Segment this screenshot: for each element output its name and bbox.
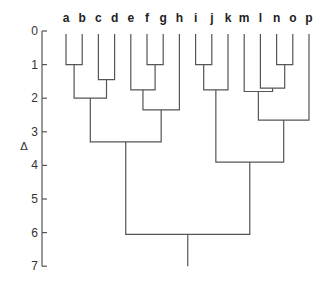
y-tick-label: 1 <box>31 58 38 72</box>
merge-efg <box>131 34 155 90</box>
merge-cd <box>98 34 114 80</box>
leaf-label-n: n <box>273 11 280 25</box>
leaf-labels: abcdefghijkmlnop <box>63 11 313 25</box>
leaf-label-o: o <box>289 11 296 25</box>
leaf-label-m: m <box>239 11 250 25</box>
leaf-label-a: a <box>63 11 70 25</box>
y-tick-label: 7 <box>31 259 38 273</box>
leaf-label-l: l <box>259 11 262 25</box>
leaf-label-j: j <box>209 11 213 25</box>
merge-ijk <box>204 34 228 90</box>
merge-ij <box>196 34 212 65</box>
merge-no <box>277 34 293 65</box>
merge-efgh <box>143 34 179 110</box>
merge-lno <box>260 34 284 88</box>
merge-mlno <box>244 34 272 91</box>
leaf-label-d: d <box>111 11 118 25</box>
leaf-label-i: i <box>194 11 197 25</box>
y-axis-title: Δ <box>20 140 28 153</box>
leaf-label-k: k <box>225 11 232 25</box>
merge-mlnop <box>258 34 309 120</box>
leaf-label-c: c <box>95 11 102 25</box>
y-tick-label: 0 <box>31 24 38 38</box>
y-axis: 01234567 <box>31 24 47 273</box>
merge-abcd <box>74 65 106 99</box>
leaf-label-b: b <box>79 11 86 25</box>
merge-i-p <box>216 90 284 162</box>
y-tick-label: 6 <box>31 226 38 240</box>
leaf-label-e: e <box>127 11 134 25</box>
merge-a-h <box>90 98 161 142</box>
y-tick-label: 3 <box>31 125 38 139</box>
y-tick-label: 5 <box>31 192 38 206</box>
leaf-label-f: f <box>145 11 150 25</box>
y-tick-label: 4 <box>31 158 38 172</box>
leaf-label-p: p <box>305 11 312 25</box>
leaf-label-h: h <box>176 11 183 25</box>
dendrogram-links <box>66 34 309 266</box>
dendrogram: 01234567 Δ abcdefghijkmlnop <box>0 0 330 288</box>
leaf-label-g: g <box>160 11 167 25</box>
merge-ab <box>66 34 82 65</box>
merge-root <box>126 142 250 234</box>
y-tick-label: 2 <box>31 91 38 105</box>
merge-fg <box>147 34 163 65</box>
